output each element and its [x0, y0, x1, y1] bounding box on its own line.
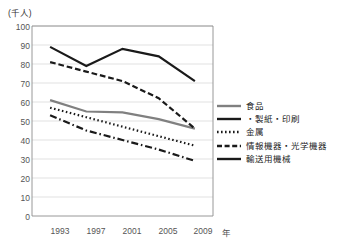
- y-tick-label: 60: [4, 98, 30, 108]
- y-tick-label: 10: [4, 193, 30, 203]
- legend-label: ・製紙・印刷: [246, 114, 300, 124]
- x-tick-label: 2005: [148, 226, 188, 236]
- legend: 食品 ・製紙・印刷 金属 情報機器・光学機器 輸送用機械: [216, 99, 348, 166]
- x-tick-label: 2001: [112, 226, 152, 236]
- line-chart-figure: (千人) 100 90 80 70 60 50 40 30 20 10 0 19…: [0, 0, 350, 248]
- legend-label: 金属: [246, 127, 264, 137]
- y-tick-label: 20: [4, 174, 30, 184]
- legend-label: 食品: [246, 101, 264, 111]
- legend-item-seishi-insatsu[interactable]: ・製紙・印刷: [216, 112, 348, 125]
- y-tick-label: 0: [4, 212, 30, 222]
- legend-key-dashdot-icon: [216, 114, 242, 124]
- y-tick-label: 90: [4, 41, 30, 51]
- legend-key-dotted-icon: [216, 127, 242, 137]
- x-tick-label: 1993: [40, 226, 80, 236]
- legend-label: 輸送用機械: [246, 154, 291, 164]
- y-tick-label: 70: [4, 79, 30, 89]
- x-axis-unit-label: 年: [222, 226, 231, 238]
- legend-key-solid-black-icon: [216, 154, 242, 164]
- x-tick-label: 2009: [183, 226, 223, 236]
- y-tick-label: 100: [4, 22, 30, 32]
- legend-item-yuso-kikai[interactable]: 輸送用機械: [216, 153, 348, 166]
- legend-item-joho-kogaku[interactable]: 情報機器・光学機器: [216, 139, 348, 152]
- series-line: [50, 100, 195, 129]
- y-tick-label: 50: [4, 117, 30, 127]
- legend-item-shokuhin[interactable]: 食品: [216, 99, 348, 112]
- y-tick-label: 80: [4, 60, 30, 70]
- legend-key-solid-gray-icon: [216, 101, 242, 111]
- x-tick-label: 1997: [76, 226, 116, 236]
- legend-label: 情報機器・光学機器: [246, 141, 327, 151]
- series-line: [50, 62, 195, 129]
- legend-item-kinzoku[interactable]: 金属: [216, 126, 348, 139]
- y-axis-unit-label: (千人): [8, 6, 32, 18]
- legend-key-dashed-icon: [216, 141, 242, 151]
- y-tick-label: 30: [4, 155, 30, 165]
- y-tick-label: 40: [4, 136, 30, 146]
